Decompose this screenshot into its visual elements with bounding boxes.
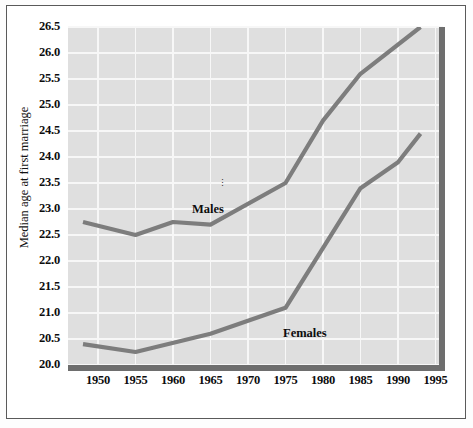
chart-figure: 20.020.521.021.522.022.523.023.524.024.5… [0,0,473,428]
plot-wrapper: ⋮ Males Females [68,27,443,365]
x-axis-rule [68,365,445,371]
series-container [68,27,443,365]
y-axis-tick-label: 26.0 [2,45,60,60]
series-label-males: Males [192,202,224,217]
y-axis-title: Median age at first marriage [17,68,32,288]
males-pointer-icon: ⋮ [218,179,227,187]
y-axis-tick-label: 21.0 [2,305,60,320]
line-series-females [83,134,421,352]
y-axis-tick-label: 26.5 [2,19,60,34]
x-axis-tick-label: 1995 [413,373,459,388]
y-axis-tick-labels: 20.020.521.021.522.022.523.023.524.024.5… [0,0,64,428]
right-axis-rule [439,27,445,371]
y-axis-tick-label: 20.5 [2,331,60,346]
series-label-females: Females [283,326,327,341]
line-series-males [83,27,421,235]
y-axis-tick-label: 20.0 [2,357,60,372]
